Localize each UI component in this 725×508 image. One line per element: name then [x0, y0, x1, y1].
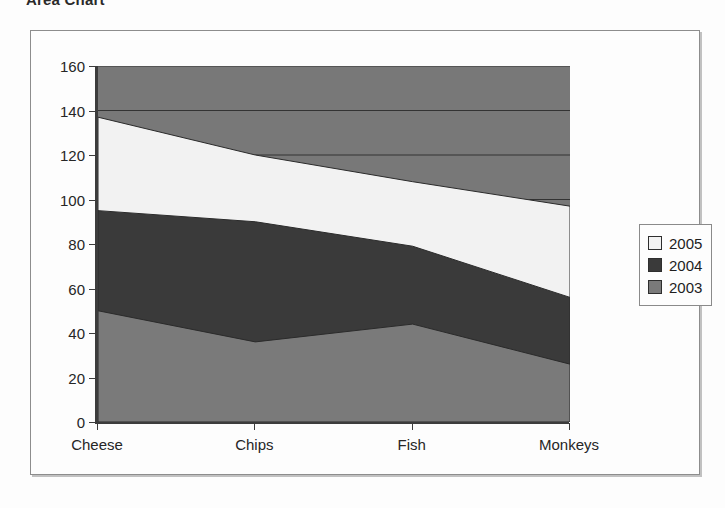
y-axis-tick — [89, 378, 96, 379]
chart-frame: 160140120100806040200 CheeseChipsFishMon… — [30, 30, 700, 475]
legend-swatch-icon — [648, 258, 662, 272]
x-axis-label: Cheese — [71, 436, 123, 453]
legend-label: 2005 — [669, 236, 702, 251]
y-axis-tick — [89, 66, 96, 67]
y-axis-label: 100 — [60, 191, 85, 208]
plot-wrapper: 160140120100806040200 CheeseChipsFishMon… — [97, 66, 569, 422]
y-axis-tick — [89, 289, 96, 290]
x-axis-line — [95, 422, 569, 424]
x-axis-tick — [569, 423, 570, 430]
legend-item-2004: 2004 — [648, 254, 702, 276]
y-axis-label: 80 — [68, 236, 85, 253]
x-axis-label: Chips — [235, 436, 273, 453]
legend-swatch-icon — [648, 280, 662, 294]
x-axis-tick — [412, 423, 413, 430]
legend-swatch-icon — [648, 236, 662, 250]
legend-label: 2004 — [669, 258, 702, 273]
y-axis-tick — [89, 155, 96, 156]
x-axis-label: Monkeys — [539, 436, 599, 453]
x-axis-tick — [97, 423, 98, 430]
x-axis-label: Fish — [397, 436, 425, 453]
legend-label: 2003 — [669, 280, 702, 295]
x-axis-tick — [254, 423, 255, 430]
y-axis-tick — [89, 422, 96, 423]
legend-item-2003: 2003 — [648, 276, 702, 298]
y-axis-label: 40 — [68, 325, 85, 342]
page-title: Area Chart — [26, 0, 105, 8]
y-axis-tick — [89, 111, 96, 112]
y-axis-label: 140 — [60, 102, 85, 119]
area-chart-svg — [98, 66, 570, 422]
chart-legend: 200520042003 — [639, 224, 712, 306]
y-axis-label: 160 — [60, 58, 85, 75]
series-group — [98, 117, 570, 422]
plot-area — [97, 66, 570, 422]
y-axis-label: 60 — [68, 280, 85, 297]
y-axis-label: 20 — [68, 369, 85, 386]
y-axis-tick — [89, 200, 96, 201]
y-axis-tick — [89, 333, 96, 334]
y-axis-tick — [89, 244, 96, 245]
y-axis-label: 0 — [77, 414, 85, 431]
y-axis-label: 120 — [60, 147, 85, 164]
legend-item-2005: 2005 — [648, 232, 702, 254]
